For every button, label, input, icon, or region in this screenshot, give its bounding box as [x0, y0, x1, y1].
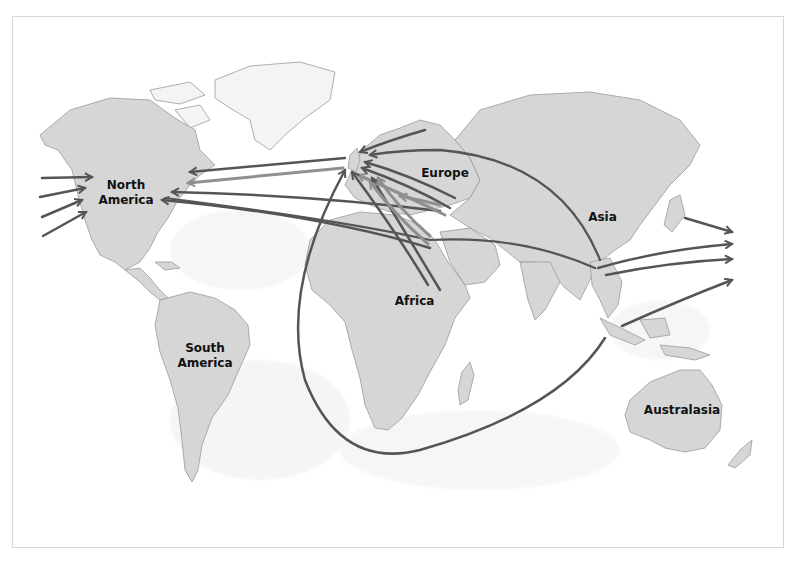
arrow-pacific-na-1 — [42, 177, 92, 178]
label-africa: Africa — [392, 294, 437, 309]
arrow-pacific-na-3 — [42, 200, 82, 217]
arrow-japan-east — [685, 218, 732, 232]
label-line: America — [175, 356, 235, 371]
world-map — [0, 0, 794, 571]
label-line: America — [96, 193, 156, 208]
label-australasia: Australasia — [642, 403, 722, 418]
label-line: Africa — [392, 294, 437, 309]
label-line: North — [96, 178, 156, 193]
arrow-pacific-na-4 — [43, 212, 86, 236]
label-line: Asia — [585, 210, 620, 225]
greenland — [215, 62, 335, 150]
continents — [40, 62, 752, 482]
label-asia: Asia — [585, 210, 620, 225]
label-south-america: South America — [175, 341, 235, 371]
label-europe: Europe — [420, 166, 470, 181]
label-north-america: North America — [96, 178, 156, 208]
label-line: Australasia — [642, 403, 722, 418]
label-line: Europe — [420, 166, 470, 181]
label-line: South — [175, 341, 235, 356]
